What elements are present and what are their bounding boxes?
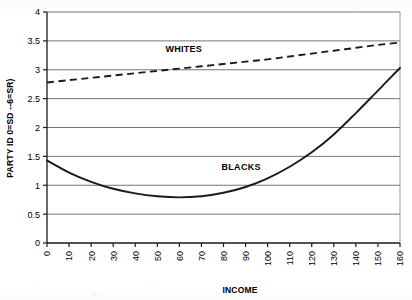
gridlines-group	[47, 12, 400, 214]
y-axis-tick-label: 3.5	[27, 36, 40, 46]
chart-canvas: 00.511.522.533.54 0102030405060708090100…	[0, 0, 412, 300]
x-axis-tick-label: 60	[175, 251, 185, 261]
x-axis-tick-label: 10	[64, 251, 74, 261]
annotation-whites: WHITES	[163, 43, 205, 55]
x-axis-tick-label: 20	[87, 251, 97, 261]
y-axis-tick-label: 1.5	[27, 152, 40, 162]
y-axis-tick-label: 0	[35, 238, 40, 248]
x-axis-title: INCOME	[222, 285, 257, 295]
y-axis-tick-label: 2	[35, 123, 40, 133]
x-axis-tick-label: 70	[197, 251, 207, 261]
series-label-blacks: BLACKS	[221, 162, 260, 172]
series-line-whites	[47, 43, 400, 83]
x-axis-tick-label: 80	[219, 251, 229, 261]
x-axis-tick-label: 90	[241, 251, 251, 261]
party-id-by-income-chart: 00.511.522.533.54 0102030405060708090100…	[0, 0, 412, 300]
y-axis-title: PARTY ID 0=SD --6=SR)	[5, 78, 15, 177]
x-axis-tick-label: 0	[42, 251, 52, 256]
y-axis-tick-label: 3	[35, 65, 40, 75]
series-label-whites: WHITES	[165, 44, 202, 54]
y-axis-tick-label: 2.5	[27, 94, 40, 104]
annotation-blacks: BLACKS	[219, 161, 263, 173]
y-axis-tick-label: 1	[35, 181, 40, 191]
x-axis-tick-label: 30	[109, 251, 119, 261]
series-annotations-group: WHITES BLACKS	[163, 43, 263, 172]
x-axis-tick-label: 100	[263, 251, 273, 266]
y-axis-ticks-group: 00.511.522.533.54	[27, 7, 47, 248]
x-axis-tick-label: 130	[329, 251, 339, 266]
x-axis-ticks-group: 0102030405060708090100110120130140150160	[42, 243, 405, 266]
y-axis-tick-label: 4	[35, 7, 40, 17]
x-axis-tick-label: 150	[373, 251, 383, 266]
x-axis-tick-label: 50	[153, 251, 163, 261]
y-axis-tick-label: 0.5	[27, 210, 40, 220]
x-axis-tick-label: 120	[307, 251, 317, 266]
x-axis-tick-label: 110	[285, 251, 295, 265]
series-line-blacks	[47, 68, 400, 197]
x-axis-tick-label: 140	[351, 251, 361, 266]
x-axis-tick-label: 160	[395, 251, 405, 266]
x-axis-tick-label: 40	[131, 251, 141, 261]
